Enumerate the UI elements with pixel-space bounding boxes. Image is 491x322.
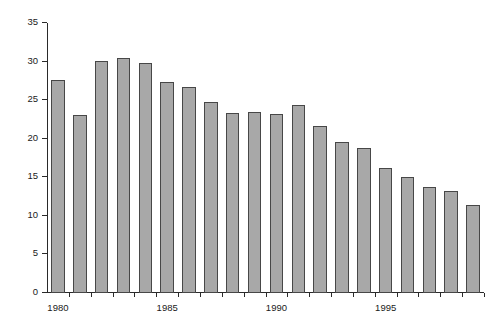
y-axis-tick-label: 10 [27, 208, 38, 221]
x-axis-tick [440, 293, 441, 297]
bar [292, 105, 306, 293]
y-axis-tick: 25 [42, 99, 47, 100]
y-axis-tick: 35 [42, 22, 47, 23]
y-axis-title: Percent [4, 0, 18, 14]
x-axis-tick [484, 293, 485, 297]
x-axis-tick [397, 293, 398, 297]
x-axis-tick-label: 1985 [157, 302, 178, 314]
x-axis-tick-label: 1995 [375, 302, 396, 314]
bar [313, 126, 327, 293]
x-axis-tick [266, 293, 267, 297]
bar [73, 115, 87, 293]
x-axis-tick-label: 1990 [266, 302, 287, 314]
y-axis-tick: 20 [42, 138, 47, 139]
x-axis-tick [353, 293, 354, 297]
x-axis-tick [331, 293, 332, 297]
x-axis-tick [309, 293, 310, 297]
y-axis-tick-label: 35 [27, 15, 38, 28]
x-axis-tick [418, 293, 419, 297]
y-axis-tick-label: 5 [33, 246, 38, 259]
x-axis-tick-label: 1980 [47, 302, 68, 314]
y-axis-tick-label: 20 [27, 131, 38, 144]
bar [444, 191, 458, 293]
bar [270, 114, 284, 293]
bar [117, 58, 131, 293]
y-axis-tick-label: 25 [27, 92, 38, 105]
x-axis-tick [222, 293, 223, 297]
bar [379, 168, 393, 293]
y-axis-tick: 0 [42, 292, 47, 293]
bar [248, 112, 262, 293]
bar [357, 148, 371, 293]
bar [95, 61, 109, 293]
x-axis-tick [156, 293, 157, 297]
bar-chart: Percent 05101520253035 1980198519901995 [0, 0, 491, 322]
bar [160, 82, 174, 293]
plot-area: 05101520253035 1980198519901995 [47, 23, 484, 293]
y-axis-tick: 10 [42, 215, 47, 216]
x-axis-tick [69, 293, 70, 297]
x-axis-tick [462, 293, 463, 297]
y-axis-tick-label: 0 [33, 285, 38, 298]
y-axis-line [47, 23, 48, 293]
y-axis-tick: 30 [42, 61, 47, 62]
bar [423, 187, 437, 293]
y-axis-tick: 5 [42, 253, 47, 254]
y-axis-tick-label: 15 [27, 169, 38, 182]
x-axis-tick [178, 293, 179, 297]
x-axis-tick [91, 293, 92, 297]
bar [401, 177, 415, 293]
y-axis-title-text: Percent [4, 0, 18, 14]
bar [51, 80, 65, 293]
x-axis-tick [244, 293, 245, 297]
x-axis-tick [113, 293, 114, 297]
bar [335, 142, 349, 293]
x-axis-tick [287, 293, 288, 297]
bar [226, 113, 240, 294]
bar [466, 205, 480, 293]
bar [182, 87, 196, 293]
y-axis-tick: 15 [42, 176, 47, 177]
x-axis-tick [134, 293, 135, 297]
x-axis-tick [375, 293, 376, 297]
x-axis-tick [200, 293, 201, 297]
bar [204, 102, 218, 293]
bar [139, 63, 153, 293]
y-axis-tick-label: 30 [27, 54, 38, 67]
